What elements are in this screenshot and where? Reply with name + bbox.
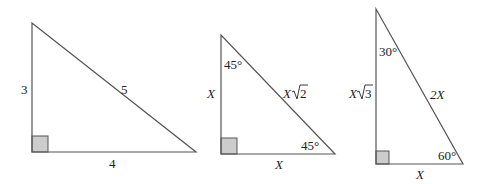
right-angle-marker: [32, 136, 48, 152]
vertical-leg-label: X 3: [348, 85, 373, 101]
horizontal-leg-label: X: [415, 167, 425, 182]
top-angle-label: 30°: [379, 44, 397, 59]
hypotenuse-label: X 2: [282, 85, 308, 101]
svg-text:3: 3: [365, 86, 372, 101]
bottom-angle-label: 60°: [438, 148, 456, 163]
hypotenuse-label: 2X: [430, 87, 446, 102]
triangle-outline: [32, 23, 196, 152]
horizontal-leg-label: X: [274, 157, 284, 172]
right-angle-marker: [376, 151, 389, 164]
triangle-3-4-5: 3 5 4: [21, 23, 196, 171]
top-angle-label: 45°: [224, 57, 242, 72]
triangle-30-60-90: 30° X 3 2X 60° X: [348, 9, 463, 182]
vertical-leg-label: 3: [21, 82, 28, 97]
triangle-outline: [221, 35, 335, 154]
horizontal-leg-label: 4: [109, 156, 116, 171]
diagram-canvas: 3 5 4 45° X X 2 45° X 30° X 3 2X 60° X: [0, 0, 482, 184]
bottom-angle-label: 45°: [301, 138, 319, 153]
hypotenuse-label: 5: [121, 82, 128, 97]
triangle-outline: [376, 9, 463, 164]
svg-text:X: X: [348, 86, 358, 101]
triangle-45-45-90: 45° X X 2 45° X: [206, 35, 335, 172]
svg-text:X: X: [282, 86, 292, 101]
right-angle-marker: [221, 138, 237, 154]
svg-text:2: 2: [300, 86, 307, 101]
vertical-leg-label: X: [206, 86, 216, 101]
